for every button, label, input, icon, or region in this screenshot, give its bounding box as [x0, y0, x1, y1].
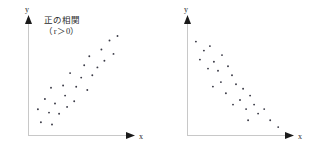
data-point: [66, 106, 68, 108]
data-point: [242, 88, 244, 90]
data-point: [100, 49, 102, 51]
y-axis-label-positive: y: [25, 5, 29, 14]
scatter-plot-negative: y x: [159, 0, 317, 159]
data-point: [207, 68, 209, 70]
data-point: [203, 50, 205, 52]
y-axis-arrow-icon-negative: [184, 15, 191, 24]
data-point: [58, 113, 60, 115]
panel-positive-correlation: y x: [0, 0, 158, 159]
data-point: [88, 55, 90, 57]
data-point: [227, 65, 229, 67]
panel-title-main-positive: 正の相関: [26, 15, 98, 26]
data-point: [217, 70, 219, 72]
data-point: [103, 60, 105, 62]
data-point: [109, 40, 111, 42]
data-point: [64, 95, 66, 97]
data-point: [83, 64, 85, 66]
data-point: [209, 45, 211, 47]
data-point: [235, 83, 237, 85]
data-point-group-positive: [37, 35, 119, 125]
data-point: [86, 89, 88, 91]
data-point: [220, 81, 222, 83]
data-point: [44, 98, 46, 100]
data-point: [73, 100, 75, 102]
data-point: [231, 74, 233, 76]
data-point: [247, 119, 249, 121]
data-point: [113, 53, 115, 55]
data-point: [213, 61, 215, 63]
data-point: [212, 86, 214, 88]
data-point: [221, 54, 223, 56]
data-point: [96, 66, 98, 68]
data-point-group-negative: [195, 41, 279, 128]
data-point: [62, 85, 64, 87]
data-point: [48, 112, 50, 114]
data-point: [253, 104, 255, 106]
panel-negative-correlation: y x: [159, 0, 317, 159]
data-point: [75, 86, 77, 88]
data-point: [245, 108, 247, 110]
data-point: [117, 35, 119, 37]
data-point: [239, 99, 241, 101]
data-point: [51, 124, 53, 126]
data-point: [249, 95, 251, 97]
data-point: [232, 104, 234, 106]
x-axis-arrow-icon-negative: [285, 132, 294, 139]
data-point: [37, 108, 39, 110]
data-point: [263, 108, 265, 110]
data-point: [69, 72, 71, 74]
correlation-scatter-figure: y x: [0, 0, 317, 159]
x-axis-label-negative: x: [298, 132, 302, 141]
data-point: [277, 126, 279, 128]
x-axis-arrow-icon-positive: [126, 132, 135, 139]
data-point: [257, 113, 259, 115]
data-point: [50, 87, 52, 89]
data-point: [80, 77, 82, 79]
y-axis-label-negative: y: [184, 5, 188, 14]
data-point: [199, 59, 201, 61]
panel-title-sub-positive: （r＞0）: [26, 26, 98, 37]
data-point: [225, 92, 227, 94]
data-point: [195, 41, 197, 43]
x-axis-label-positive: x: [139, 132, 143, 141]
panel-title-positive: 正の相関 （r＞0）: [26, 15, 98, 37]
data-point: [54, 103, 56, 105]
data-point: [40, 121, 42, 123]
data-point: [269, 119, 271, 121]
data-point: [91, 74, 93, 76]
